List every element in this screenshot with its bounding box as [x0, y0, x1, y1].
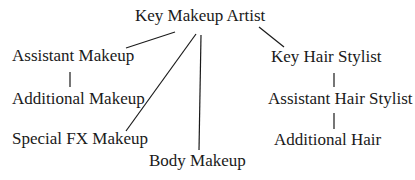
node-body-makeup: Body Makeup — [149, 151, 246, 171]
node-assistant-hair: Assistant Hair Stylist — [268, 89, 413, 109]
edge-key-makeup-to-key-hair — [259, 27, 284, 47]
node-assistant-makeup: Assistant Makeup — [12, 46, 134, 66]
node-additional-hair: Additional Hair — [274, 130, 381, 150]
edge-key-makeup-to-special-fx — [126, 34, 196, 131]
node-key-hair: Key Hair Stylist — [271, 47, 382, 67]
node-special-fx: Special FX Makeup — [12, 129, 148, 149]
node-key-makeup: Key Makeup Artist — [135, 6, 265, 26]
edge-key-makeup-to-body-makeup — [199, 35, 201, 150]
node-additional-makeup: Additional Makeup — [12, 89, 145, 109]
org-diagram: Key Makeup ArtistAssistant MakeupAdditio… — [0, 0, 415, 180]
